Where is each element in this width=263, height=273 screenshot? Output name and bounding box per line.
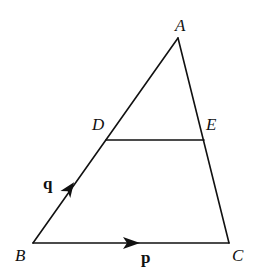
label-c: C <box>232 246 244 265</box>
label-d: D <box>91 115 105 134</box>
triangle-diagram: A D E B C q p <box>0 0 263 273</box>
label-a: A <box>174 16 186 35</box>
label-vector-q: q <box>43 174 53 193</box>
label-b: B <box>15 246 26 265</box>
label-e: E <box>205 115 217 134</box>
label-vector-p: p <box>141 248 150 267</box>
